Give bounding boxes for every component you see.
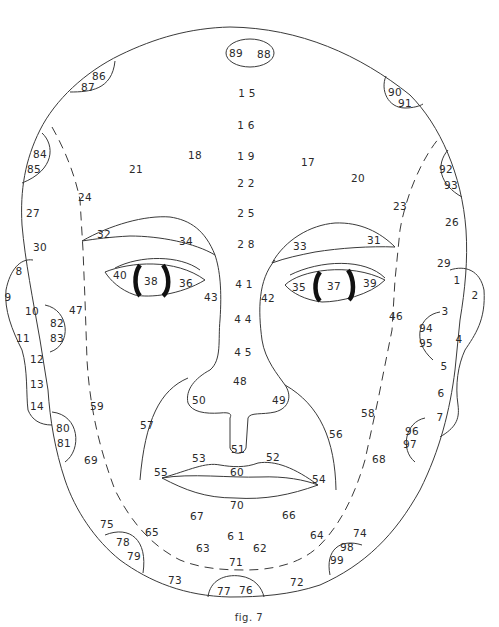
zone-label-79: 79 (127, 551, 141, 562)
zone-label-49: 49 (272, 395, 286, 406)
zone-label-13: 13 (30, 379, 44, 390)
zone-label-56: 56 (329, 429, 343, 440)
zone-label-9: 9 (5, 292, 12, 303)
zone-label-45: 4 5 (234, 347, 251, 358)
zone-label-26: 26 (445, 217, 459, 228)
zone-label-20: 20 (351, 173, 365, 184)
zone-label-89: 89 (229, 48, 243, 59)
zone-label-38: 38 (144, 276, 158, 287)
zone-label-68: 68 (372, 454, 386, 465)
zone-label-66: 66 (282, 510, 296, 521)
zone-label-58: 58 (361, 408, 375, 419)
zone-label-39: 39 (363, 278, 377, 289)
zone-label-97: 97 (403, 439, 417, 450)
zone-label-5: 5 (441, 361, 448, 372)
zone-label-85: 85 (27, 164, 41, 175)
zone-label-69: 69 (84, 455, 98, 466)
zone-label-43: 43 (204, 292, 218, 303)
zone-label-22: 2 2 (237, 178, 254, 189)
zone-label-64: 64 (310, 530, 324, 541)
zone-label-6: 6 (438, 388, 445, 399)
zone-label-19: 1 9 (237, 151, 254, 162)
zone-label-95: 95 (419, 338, 433, 349)
zone-label-75: 75 (100, 519, 114, 530)
zone-label-23: 23 (393, 201, 407, 212)
zone-label-51: 51 (231, 444, 245, 455)
zone-label-48: 48 (233, 376, 247, 387)
zone-label-67: 67 (190, 511, 204, 522)
zone-label-30: 30 (33, 242, 47, 253)
zone-label-14: 14 (30, 401, 44, 412)
zone-label-4: 4 (456, 334, 463, 345)
zone-label-1: 1 (454, 275, 461, 286)
zone-label-29: 29 (437, 258, 451, 269)
zone-label-46: 46 (389, 311, 403, 322)
zone-label-61: 6 1 (227, 531, 244, 542)
zone-label-98: 98 (340, 542, 354, 553)
zone-label-42: 42 (261, 293, 275, 304)
zone-label-40: 40 (113, 270, 127, 281)
right-pupil-right (348, 270, 353, 300)
zone-label-3: 3 (442, 306, 449, 317)
zone-label-91: 91 (398, 98, 412, 109)
zone-label-78: 78 (116, 537, 130, 548)
zone-label-7: 7 (437, 412, 444, 423)
zone-label-77: 77 (217, 586, 231, 597)
zone-label-73: 73 (168, 575, 182, 586)
zone-label-12: 12 (30, 354, 44, 365)
left-pupil-right (163, 265, 168, 296)
zone-label-55: 55 (154, 467, 168, 478)
zone-label-47: 47 (69, 305, 83, 316)
zone-label-90: 90 (388, 87, 402, 98)
zone-label-28: 2 8 (237, 239, 254, 250)
zone-label-94: 94 (419, 323, 433, 334)
zone-label-74: 74 (353, 528, 367, 539)
zone-label-76: 76 (239, 585, 253, 596)
figure-caption: fig. 7 (235, 612, 263, 623)
zone-label-50: 50 (192, 395, 206, 406)
zone-label-41: 4 1 (235, 279, 252, 290)
zone-label-35: 35 (292, 282, 306, 293)
zone-label-16: 1 6 (237, 120, 254, 131)
zone-label-93: 93 (444, 180, 458, 191)
zone-label-44: 4 4 (234, 314, 251, 325)
zone-label-17: 17 (301, 157, 315, 168)
zone-label-62: 62 (253, 543, 267, 554)
zone-label-71: 71 (229, 557, 243, 568)
zone-label-2: 2 (472, 290, 479, 301)
zone-label-54: 54 (312, 474, 326, 485)
zone-label-99: 99 (330, 555, 344, 566)
zone-label-96: 96 (405, 426, 419, 437)
left-pupil-left (135, 265, 140, 296)
zone-label-59: 59 (90, 401, 104, 412)
zone-label-18: 18 (188, 150, 202, 161)
zone-label-10: 10 (25, 306, 39, 317)
zone-label-86: 86 (92, 71, 106, 82)
zone-label-31: 31 (367, 235, 381, 246)
lower-lip (162, 478, 318, 498)
zone-label-57: 57 (140, 420, 154, 431)
zone-label-27: 27 (26, 208, 40, 219)
zone-label-83: 83 (50, 333, 64, 344)
zone-label-84: 84 (33, 149, 47, 160)
zone-label-15: 1 5 (238, 88, 255, 99)
zone-label-36: 36 (179, 278, 193, 289)
zone-label-60: 60 (230, 467, 244, 478)
zone-label-52: 52 (266, 452, 280, 463)
right-pupil-left (315, 272, 320, 301)
zone-label-70: 70 (230, 500, 244, 511)
face-map-diagram: 12345678910111213141 51 617181 920212 22… (0, 0, 499, 627)
zone-label-8: 8 (16, 266, 23, 277)
zone-label-24: 24 (78, 192, 92, 203)
zone-label-72: 72 (290, 577, 304, 588)
zone-label-32: 32 (97, 229, 111, 240)
zone-label-11: 11 (16, 333, 30, 344)
zone-label-65: 65 (145, 527, 159, 538)
zone-label-25: 2 5 (237, 208, 254, 219)
zone-label-34: 34 (179, 236, 193, 247)
zone-label-63: 63 (196, 543, 210, 554)
zone-label-87: 87 (81, 82, 95, 93)
zone-label-21: 21 (129, 164, 143, 175)
zone-label-33: 33 (293, 241, 307, 252)
zone-label-82: 82 (50, 318, 64, 329)
